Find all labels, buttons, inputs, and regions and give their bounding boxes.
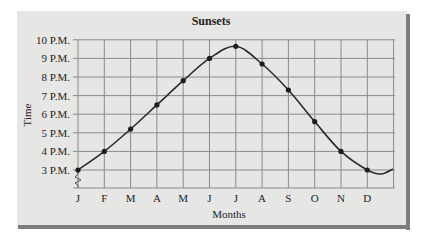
- x-tick-label: F: [94, 192, 114, 204]
- data-point: [312, 119, 317, 124]
- y-tick-label: 8 P.M.: [42, 71, 70, 83]
- data-point: [102, 149, 107, 154]
- data-point: [128, 126, 133, 131]
- x-tick-label: D: [357, 192, 377, 204]
- data-point: [338, 149, 343, 154]
- y-axis-label: Time: [21, 95, 33, 135]
- x-tick-label: J: [200, 192, 220, 204]
- x-tick-label: J: [226, 192, 246, 204]
- data-point: [233, 44, 238, 49]
- y-tick-label: 7 P.M.: [42, 90, 70, 102]
- x-axis-label: Months: [199, 208, 259, 220]
- y-tick-label: 9 P.M.: [42, 52, 70, 64]
- x-tick-label: M: [121, 192, 141, 204]
- data-point: [286, 87, 291, 92]
- data-point: [260, 61, 265, 66]
- y-tick-label: 3 P.M.: [42, 164, 70, 176]
- y-tick-label: 4 P.M.: [42, 145, 70, 157]
- x-tick-label: A: [252, 192, 272, 204]
- x-tick-label: M: [173, 192, 193, 204]
- data-point: [181, 78, 186, 83]
- y-tick-label: 10 P.M.: [36, 34, 70, 46]
- x-tick-label: J: [68, 192, 88, 204]
- x-tick-label: S: [278, 192, 298, 204]
- data-point: [207, 56, 212, 61]
- x-tick-label: A: [147, 192, 167, 204]
- data-point: [365, 167, 370, 172]
- x-tick-label: O: [305, 192, 325, 204]
- data-point: [154, 102, 159, 107]
- y-tick-label: 5 P.M.: [42, 127, 70, 139]
- data-point: [75, 167, 80, 172]
- x-tick-label: N: [331, 192, 351, 204]
- chart-title: Sunsets: [0, 14, 422, 29]
- y-tick-label: 6 P.M.: [42, 108, 70, 120]
